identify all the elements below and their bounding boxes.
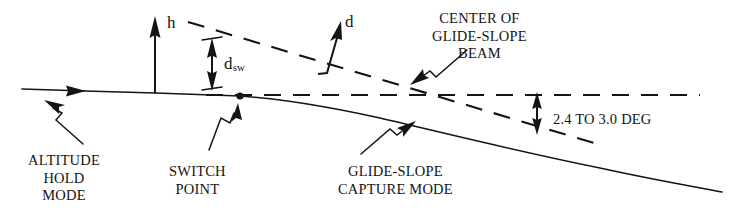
label-altitude-hold-mode: ALTITUDE HOLD MODE (28, 152, 100, 205)
label-altitude-symbol: h (167, 14, 176, 32)
leader-switch-point-line (209, 113, 234, 150)
dsw-subscript: sw (233, 61, 245, 73)
angle-dimension-arrow-down-icon (532, 118, 542, 135)
leader-switch-point-arrow-icon (231, 103, 242, 122)
label-center-of-glide-slope-beam: CENTER OF GLIDE-SLOPE BEAM (432, 10, 527, 63)
glide-slope-diagram: CENTER OF GLIDE-SLOPE BEAM 2.4 TO 3.0 DE… (0, 0, 743, 218)
label-switch-point: SWITCH POINT (169, 163, 226, 198)
altitude-vector-arrow-icon (150, 16, 161, 38)
leader-capture-mode-line (361, 128, 406, 154)
label-angle-range: 2.4 TO 3.0 DEG (553, 111, 652, 129)
leader-altitude-hold-line (53, 108, 83, 144)
deviation-vector-arrow-icon (330, 21, 342, 41)
leader-center-beam-arrow-icon (410, 69, 429, 85)
dsw-base: d (224, 54, 233, 73)
flight-direction-arrow-icon (66, 86, 86, 97)
label-glide-slope-capture-mode: GLIDE-SLOPE CAPTURE MODE (338, 163, 453, 198)
label-deviation-symbol: d (345, 13, 354, 31)
switch-point-dot (236, 92, 243, 99)
dsw-vector-arrow-up-icon (207, 38, 217, 58)
leader-altitude-hold-arrow-icon (44, 100, 65, 114)
label-switch-deviation-symbol: dsw (224, 55, 245, 77)
glide-slope-beam-center-line (188, 22, 604, 146)
